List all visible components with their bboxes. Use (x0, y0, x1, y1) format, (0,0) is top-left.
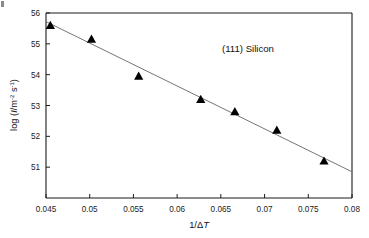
y-tick-label: 53 (31, 102, 41, 111)
y-axis-title-suffix: ) (9, 79, 19, 82)
scatter-plot: 515253545556 0.0450.050.0550.060.0650.07… (0, 0, 369, 238)
x-axis-tick-labels: 0.0450.050.0550.060.0650.070.0750.08 (36, 205, 361, 214)
data-point-marker (319, 156, 328, 164)
y-tick-label: 51 (31, 163, 41, 172)
x-tick-label: 0.05 (82, 205, 98, 214)
corner-artifact (1, 1, 4, 7)
plot-annotation: (111) Silicon (222, 43, 274, 54)
trend-line (46, 22, 352, 172)
x-tick-label: 0.08 (344, 205, 360, 214)
y-axis-title: log (I/m-2 s-1) (9, 79, 19, 131)
y-tick-label: 56 (31, 9, 41, 18)
data-point-marker (87, 35, 96, 43)
data-point-marker (230, 107, 239, 115)
x-tick-label: 0.055 (123, 205, 144, 214)
data-point-marker (134, 72, 143, 80)
y-axis-ticks (46, 13, 50, 167)
y-axis-title-prefix: log ( (9, 112, 19, 131)
y-axis-tick-labels: 515253545556 (31, 9, 41, 172)
x-tick-label: 0.075 (298, 205, 319, 214)
y-axis-title-divider: /m (9, 100, 19, 111)
data-point-marker (272, 126, 281, 134)
figure-container: 515253545556 0.0450.050.0550.060.0650.07… (0, 0, 369, 238)
y-tick-label: 55 (31, 40, 41, 49)
x-tick-label: 0.065 (211, 205, 232, 214)
x-tick-label: 0.06 (169, 205, 185, 214)
y-tick-label: 52 (31, 132, 41, 141)
x-axis-title: 1/ΔT (189, 220, 210, 230)
x-tick-label: 0.045 (36, 205, 57, 214)
x-axis-title-variable: T (203, 220, 210, 230)
data-points (46, 21, 329, 165)
x-tick-label: 0.07 (257, 205, 273, 214)
x-axis-ticks (46, 194, 352, 198)
y-tick-label: 54 (31, 71, 41, 80)
